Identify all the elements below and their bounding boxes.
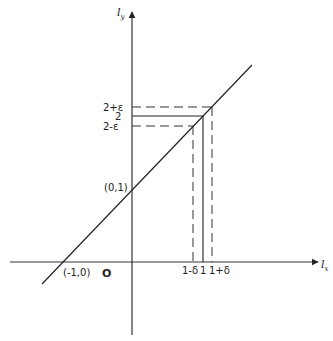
origin-label: O <box>102 267 111 280</box>
x-tick-label: 1-δ <box>182 265 198 276</box>
y-tick-label: 2-ε <box>103 121 118 132</box>
epsilon-delta-diagram: lx ly O 2+ε 2 2-ε 1-δ 1 1+δ (-1,0) (0,1) <box>0 0 333 341</box>
y-axis-label: ly <box>117 6 126 21</box>
x-axis-label: lx <box>321 258 329 273</box>
x-tick-label: 1 <box>200 265 206 276</box>
x-tick-label: 1+δ <box>209 265 230 276</box>
x-intercept-label: (-1,0) <box>63 267 90 278</box>
function-line <box>42 65 252 284</box>
y-intercept-label: (0,1) <box>104 182 128 193</box>
